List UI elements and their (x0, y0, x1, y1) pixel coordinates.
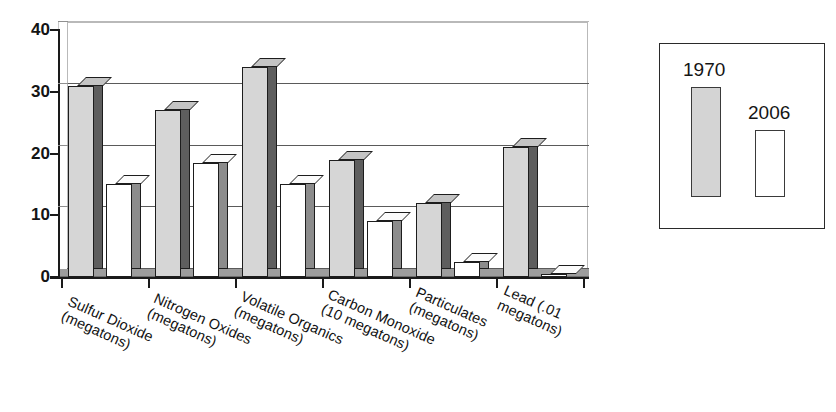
bar-top-face (454, 253, 489, 262)
bar-top-face (155, 101, 190, 110)
chart-legend: 1970 2006 (659, 43, 825, 229)
bar (155, 101, 190, 277)
bar (68, 77, 103, 277)
bar-front-face (416, 203, 442, 277)
bar-top-face (106, 175, 141, 184)
bar-front-face (68, 86, 94, 277)
bar-front-face (367, 221, 393, 277)
bar-front-face (242, 67, 268, 277)
bar (329, 151, 364, 277)
bar (541, 265, 576, 277)
bar-side-face (306, 176, 315, 269)
bar-side-face (442, 195, 451, 269)
bar-front-face (155, 110, 181, 277)
bar-top-face (242, 58, 277, 67)
bar-front-face (454, 262, 480, 277)
bar-top-face (503, 138, 538, 147)
legend-label-2006: 2006 (748, 102, 790, 124)
bar-front-face (541, 274, 567, 277)
bar-top-face (280, 175, 315, 184)
bar-top-face (68, 77, 103, 86)
bar-top-face (416, 194, 451, 203)
bar-top-face (541, 265, 576, 274)
legend-swatch-1970 (691, 87, 721, 197)
bar-side-face (268, 59, 277, 269)
bar-top-face (193, 154, 228, 163)
bar (367, 212, 402, 277)
bar-side-face (529, 139, 538, 269)
bar (503, 138, 538, 277)
x-category-label: Lead (.01megatons) (495, 282, 571, 339)
bar-side-face (219, 155, 228, 269)
legend-label-1970: 1970 (683, 59, 725, 81)
bar (416, 194, 451, 277)
bar-front-face (193, 163, 219, 277)
bar-side-face (355, 152, 364, 269)
bar (193, 154, 228, 277)
bar-top-face (367, 212, 402, 221)
bar-side-face (132, 176, 141, 269)
bar (106, 175, 141, 277)
bar (280, 175, 315, 277)
legend-swatch-2006 (755, 130, 785, 197)
bar-front-face (329, 160, 355, 277)
bar-top-face (329, 151, 364, 160)
bar-front-face (503, 147, 529, 277)
bar-side-face (181, 102, 190, 269)
chart-figure: 010203040 Sulfur Dioxide(megatons)Nitrog… (0, 0, 836, 412)
bar-side-face (393, 213, 402, 269)
x-category-label: Sulfur Dioxide(megatons) (59, 293, 156, 360)
bar (242, 58, 277, 277)
bar (454, 253, 489, 277)
bar-side-face (94, 78, 103, 269)
bar-front-face (280, 184, 306, 277)
bar-front-face (106, 184, 132, 277)
